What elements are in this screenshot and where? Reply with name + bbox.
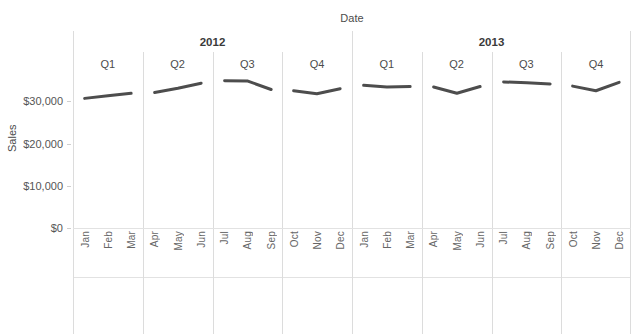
footer-divider: [282, 277, 283, 334]
quarter-divider: [352, 52, 353, 76]
footer-divider: [630, 277, 631, 334]
panel-2012-Q1: [73, 76, 143, 228]
y-tick-mark: [67, 228, 71, 229]
footer-divider: [143, 277, 144, 334]
quarter-header-2013-Q4: Q4: [561, 52, 631, 76]
panel-svg: [422, 76, 492, 228]
panel-divider: [352, 76, 353, 228]
month-label-nov-2012-3: Nov: [312, 231, 323, 249]
y-axis: $0$10,000$20,000$30,000: [0, 76, 71, 228]
month-label-jan-2012-0: Jan: [80, 231, 91, 248]
month-label-jun-2013-5: Jun: [475, 231, 486, 248]
quarter-header-2012-Q2: Q2: [143, 52, 213, 76]
quarter-header-2013-Q1: Q1: [352, 52, 422, 76]
month-band-divider: [492, 229, 493, 277]
panel-divider: [492, 76, 493, 228]
panel-svg: [73, 76, 143, 228]
footer-divider: [73, 277, 74, 334]
sales-by-date-line-chart: Date 20122013 Q1Q2Q3Q4Q1Q2Q3Q4 Sales $0$…: [0, 0, 632, 334]
month-label-aug-2013-6: Aug: [521, 231, 532, 249]
sales-line-segment: [224, 81, 271, 90]
month-label-jan-2013-4: Jan: [359, 231, 370, 248]
month-band-divider: [561, 229, 562, 277]
quarter-header-2013-Q2: Q2: [422, 52, 492, 76]
panel-svg: [282, 76, 352, 228]
month-label-may-2012-1: May: [173, 231, 184, 251]
year-band-edge: [73, 31, 74, 52]
year-band-edge: [630, 31, 631, 52]
month-label-may-2013-5: May: [452, 231, 463, 251]
month-band-divider: [213, 229, 214, 277]
y-tick-label-3: $30,000: [23, 95, 63, 107]
y-tick-label-0: $0: [51, 222, 63, 234]
panel-2012-Q2: [143, 76, 213, 228]
quarter-divider: [213, 52, 214, 76]
month-label-jul-2013-6: Jul: [498, 231, 509, 244]
footer-divider: [492, 277, 493, 334]
panel-svg: [492, 76, 562, 228]
sales-line-segment: [294, 89, 341, 94]
quarter-divider: [282, 52, 283, 76]
month-label-dec-2013-7: Dec: [614, 231, 625, 249]
quarter-header-band: Q1Q2Q3Q4Q1Q2Q3Q4: [73, 52, 631, 76]
month-band-divider: [143, 229, 144, 277]
sales-line-segment: [573, 82, 620, 90]
x-axis-title: Date: [73, 12, 631, 24]
quarter-divider: [73, 52, 74, 76]
panel-divider: [213, 76, 214, 228]
month-label-apr-2012-1: Apr: [149, 231, 160, 247]
panel-2012-Q3: [213, 76, 283, 228]
footer-grid: [73, 277, 631, 334]
month-label-dec-2012-3: Dec: [335, 231, 346, 249]
month-label-oct-2013-7: Oct: [568, 231, 579, 247]
footer-divider: [422, 277, 423, 334]
panel-divider: [561, 76, 562, 228]
month-band-divider: [352, 229, 353, 277]
quarter-header-2012-Q1: Q1: [73, 52, 143, 76]
year-header-2013: 2013: [352, 31, 631, 52]
quarter-header-2013-Q3: Q3: [492, 52, 562, 76]
y-tick-label-2: $20,000: [23, 138, 63, 150]
quarter-divider: [561, 52, 562, 76]
sales-line-segment: [433, 87, 480, 94]
sales-line-segment: [364, 85, 411, 87]
sales-line-segment: [85, 93, 132, 98]
panel-divider: [143, 76, 144, 228]
panel-2012-Q4: [282, 76, 352, 228]
footer-divider: [213, 277, 214, 334]
quarter-divider: [492, 52, 493, 76]
panel-svg: [213, 76, 283, 228]
month-band-divider: [422, 229, 423, 277]
panel-divider: [73, 76, 74, 228]
panel-2013-Q2: [422, 76, 492, 228]
quarter-divider: [630, 52, 631, 76]
y-tick-mark: [67, 186, 71, 187]
month-label-jul-2012-2: Jul: [219, 231, 230, 244]
panel-2013-Q3: [492, 76, 562, 228]
sales-line-segment: [154, 83, 201, 92]
panel-2013-Q1: [352, 76, 422, 228]
month-label-sep-2012-2: Sep: [266, 231, 277, 249]
year-header-band: 20122013: [73, 31, 631, 52]
quarter-divider: [422, 52, 423, 76]
quarter-header-2012-Q3: Q3: [213, 52, 283, 76]
panel-divider: [282, 76, 283, 228]
month-label-feb-2012-0: Feb: [103, 231, 114, 249]
month-label-aug-2012-2: Aug: [242, 231, 253, 249]
panel-svg: [561, 76, 631, 228]
x-axis-month-labels: JanFebMarAprMayJunJulAugSepOctNovDecJanF…: [73, 229, 631, 277]
month-label-mar-2012-0: Mar: [126, 231, 137, 249]
month-band-divider: [73, 229, 74, 277]
panel-divider: [422, 76, 423, 228]
month-label-mar-2013-4: Mar: [405, 231, 416, 249]
plot-area: [73, 76, 631, 228]
y-tick-mark: [67, 101, 71, 102]
month-label-feb-2013-4: Feb: [382, 231, 393, 249]
panel-2013-Q4: [561, 76, 631, 228]
footer-divider: [352, 277, 353, 334]
sales-line-segment: [503, 82, 550, 84]
y-tick-mark: [67, 144, 71, 145]
month-band-divider: [630, 229, 631, 277]
month-label-jun-2012-1: Jun: [196, 231, 207, 248]
year-header-2012: 2012: [73, 31, 352, 52]
